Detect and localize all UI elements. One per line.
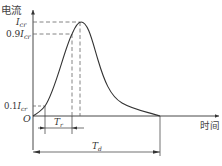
origin-label: O xyxy=(23,113,31,124)
ninety-level-label: 0.9Icr xyxy=(6,29,32,41)
current-pulse-curve xyxy=(33,22,160,116)
x-axis-label: 时间 xyxy=(200,120,220,131)
rise-time-label: Tr xyxy=(54,117,64,128)
current-pulse-diagram: 电流 Icr 0.9Icr 0.1Icr O Tr Td 时间 xyxy=(0,0,222,166)
y-axis-label: 电流 xyxy=(1,4,22,16)
duration-label: Td xyxy=(92,141,102,152)
ten-level-label: 0.1Icr xyxy=(4,101,28,112)
peak-level-label: Icr xyxy=(15,17,27,29)
